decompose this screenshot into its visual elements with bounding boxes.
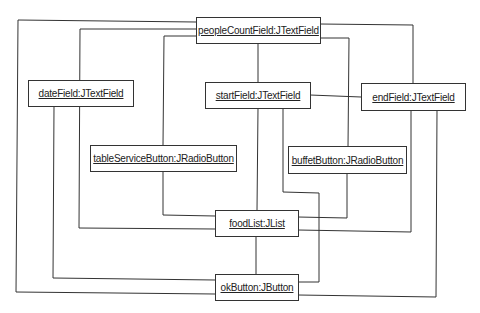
link-peoplecount-buffet xyxy=(320,38,349,147)
node-tableservicebutton: tableServiceButton:JRadioButton xyxy=(90,145,237,172)
link-buffet-foodlist xyxy=(298,174,347,218)
link-start-end xyxy=(310,95,361,97)
node-okbutton: okButton:JButton xyxy=(215,274,299,301)
node-label: okButton:JButton xyxy=(221,282,294,293)
node-label: dateField:JTextField xyxy=(39,88,124,99)
node-endfield: endField:JTextField xyxy=(361,83,466,111)
node-label: endField:JTextField xyxy=(372,92,454,103)
node-foodlist: foodList:JList xyxy=(215,210,299,237)
link-peoplecount-foodlist xyxy=(79,29,215,229)
node-label: buffetButton:JRadioButton xyxy=(292,155,404,166)
node-label: foodList:JList xyxy=(229,218,285,229)
node-startfield: startField:JTextField xyxy=(205,82,311,109)
link-date-ok xyxy=(53,106,215,280)
link-start-ok xyxy=(283,108,319,282)
node-datefield: dateField:JTextField xyxy=(28,80,134,107)
node-peoplecountfield: peopleCountField:JTextField xyxy=(196,17,321,44)
link-start-foodlist xyxy=(257,108,258,210)
object-diagram: peopleCountField:JTextField dateField:JT… xyxy=(0,0,480,313)
connector-lines xyxy=(0,0,480,313)
node-label: peopleCountField:JTextField xyxy=(198,25,319,36)
link-peoplecount-tableservice xyxy=(163,36,196,145)
link-peoplecount-end xyxy=(320,24,413,83)
node-buffetbutton: buffetButton:JRadioButton xyxy=(288,146,407,174)
link-tableservice-foodlist xyxy=(163,171,215,216)
node-label: tableServiceButton:JRadioButton xyxy=(93,153,234,164)
node-label: startField:JTextField xyxy=(216,90,301,101)
